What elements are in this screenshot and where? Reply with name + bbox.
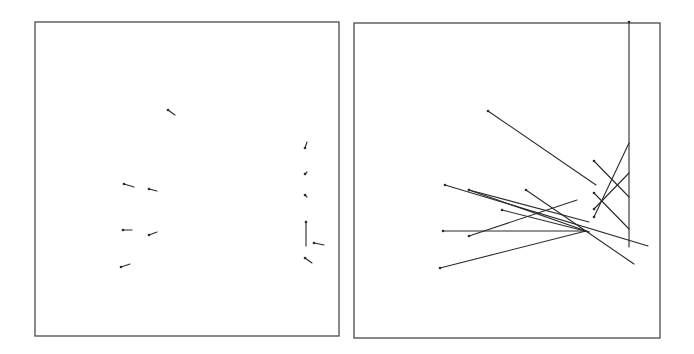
right-segment-endpoint-dot	[628, 21, 631, 24]
left-segment-endpoint-dot	[304, 173, 307, 176]
right-segment	[526, 190, 634, 264]
right-panel-frame	[354, 23, 660, 338]
right-segment-endpoint-dot	[468, 235, 471, 238]
right-segment-endpoint-dot	[487, 110, 490, 113]
left-segment-endpoint-dot	[120, 266, 123, 269]
right-segment	[488, 111, 596, 185]
right-segment-endpoint-dot	[593, 216, 596, 219]
right-segment-endpoint-dot	[468, 189, 471, 192]
right-segment	[594, 143, 629, 217]
right-segment	[440, 231, 586, 268]
right-segment	[594, 193, 629, 229]
left-segment-endpoint-dot	[304, 194, 307, 197]
left-segment-endpoint-dot	[167, 109, 170, 112]
left-segment-endpoint-dot	[305, 221, 308, 224]
left-segment-endpoint-dot	[122, 229, 125, 232]
left-segment-endpoint-dot	[148, 188, 151, 191]
right-segment-endpoint-dot	[501, 209, 504, 212]
left-segment-endpoint-dot	[148, 234, 151, 237]
left-panel-frame	[35, 22, 339, 336]
left-segment-endpoint-dot	[313, 242, 316, 245]
left-segment-endpoint-dot	[304, 147, 307, 150]
right-segment-endpoint-dot	[525, 189, 528, 192]
left-segment	[124, 184, 134, 187]
right-segment-endpoint-dot	[593, 160, 596, 163]
right-segment	[469, 190, 589, 232]
left-panel	[35, 22, 339, 336]
right-segment-endpoint-dot	[593, 192, 596, 195]
figure-canvas	[0, 0, 694, 354]
left-segment-endpoint-dot	[123, 183, 126, 186]
left-segment	[121, 264, 130, 267]
right-segment-endpoint-dot	[444, 184, 447, 187]
right-panel	[354, 21, 660, 338]
right-segment	[445, 185, 648, 246]
left-segment-endpoint-dot	[304, 257, 307, 260]
left-segment	[314, 243, 324, 245]
right-segment-endpoint-dot	[439, 267, 442, 270]
right-segment-endpoint-dot	[442, 230, 445, 233]
right-segment-endpoint-dot	[593, 208, 596, 211]
